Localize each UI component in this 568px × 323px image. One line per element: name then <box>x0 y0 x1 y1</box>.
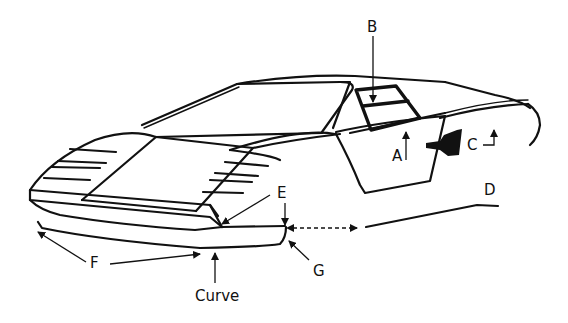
label-d: D <box>484 183 496 198</box>
label-e: E <box>277 186 286 201</box>
car-diagram: B A C D E F G Curve <box>0 0 568 323</box>
arrow-f-right <box>110 254 200 264</box>
side-skirt <box>366 205 498 227</box>
roof-outline <box>142 76 445 137</box>
arrow-g <box>289 241 309 260</box>
arrow-c <box>483 130 494 145</box>
label-a: A <box>392 149 402 164</box>
hood <box>30 133 340 211</box>
arrow-f-left <box>38 232 86 262</box>
front-bumper <box>30 190 286 248</box>
label-b: B <box>367 20 377 35</box>
air-intake <box>426 129 462 156</box>
label-curve: Curve <box>195 289 239 304</box>
car-drawing <box>0 0 568 323</box>
label-f: F <box>90 256 99 271</box>
label-g: G <box>313 264 325 279</box>
arrow-e-diag <box>222 195 270 224</box>
label-c: C <box>467 138 477 153</box>
right-louvres <box>203 150 280 193</box>
